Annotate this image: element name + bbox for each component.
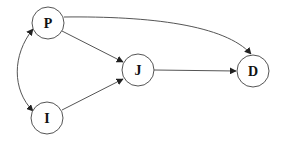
edge-p-to-d <box>64 17 251 54</box>
node-j: J <box>122 54 154 86</box>
edge-p-to-j <box>62 31 123 62</box>
dag-diagram: P J I D <box>0 0 288 141</box>
edge-j-to-d <box>154 70 236 71</box>
node-p-label: P <box>44 16 53 31</box>
node-d: D <box>237 55 269 87</box>
node-i-label: I <box>44 111 49 126</box>
node-i: I <box>31 102 63 134</box>
edge-i-to-j <box>62 79 123 110</box>
node-d-label: D <box>248 64 258 79</box>
node-p: P <box>32 7 64 39</box>
edge-p-i-bidirectional <box>17 29 33 111</box>
node-j-label: J <box>135 63 142 78</box>
